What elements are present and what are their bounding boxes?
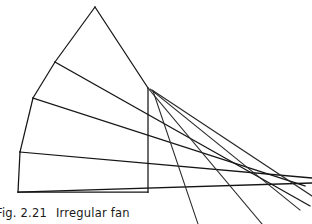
caption-figure-number: Fig. 2.21 <box>0 206 47 220</box>
ray-1-from-right-top <box>148 88 262 224</box>
figure-irregular-fan: Fig. 2.21Irregular fan <box>0 0 312 224</box>
figure-caption: Fig. 2.21Irregular fan <box>0 206 312 224</box>
ray-3-from-right-top <box>152 90 312 196</box>
rib-3-from-lower-left <box>20 152 312 178</box>
lower-left-edge <box>18 152 20 192</box>
fan-ray-group <box>148 88 312 224</box>
caption-figure-title: Irregular fan <box>56 206 130 220</box>
apex-right-edge <box>95 7 148 88</box>
apex-left-edge <box>55 7 95 62</box>
caption-line: Fig. 2.21Irregular fan <box>0 206 130 220</box>
mid-left-edge <box>20 98 33 152</box>
ray-4-from-right-top <box>153 91 198 224</box>
rib-2-from-mid-left <box>33 98 305 186</box>
fan-line-drawing <box>0 0 312 224</box>
upper-left-edge <box>33 62 55 98</box>
